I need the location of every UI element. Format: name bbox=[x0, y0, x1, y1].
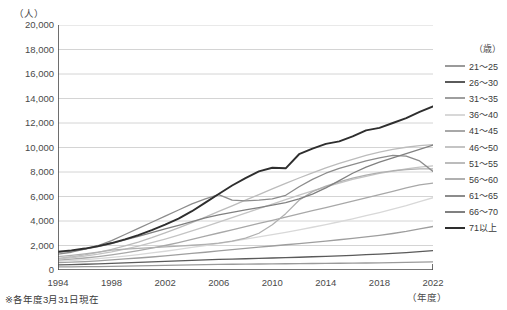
legend-item-label: 56〜60 bbox=[469, 173, 498, 186]
legend-item-label: 31〜35 bbox=[469, 92, 498, 105]
y-tick-label: 14,000 bbox=[4, 93, 54, 104]
legend-swatch-icon bbox=[445, 178, 465, 180]
x-tick-label: 2018 bbox=[357, 277, 401, 288]
legend-item-9[interactable]: 61〜65 bbox=[445, 188, 507, 204]
legend-swatch-icon bbox=[445, 162, 465, 164]
x-tick-label: 2010 bbox=[250, 277, 294, 288]
legend-rows: 21〜2526〜3031〜3536〜4041〜4546〜5051〜5556〜60… bbox=[445, 58, 507, 236]
y-tick-label: 4,000 bbox=[4, 215, 54, 226]
legend-swatch-icon bbox=[445, 211, 465, 213]
y-tick-label: 18,000 bbox=[4, 44, 54, 55]
series-lines bbox=[58, 106, 433, 266]
line-chart-svg bbox=[58, 25, 433, 270]
legend-swatch-icon bbox=[445, 146, 465, 148]
legend-swatch-icon bbox=[445, 130, 465, 132]
x-tick-label: 2006 bbox=[197, 277, 241, 288]
plot-area bbox=[58, 25, 433, 270]
legend-item-label: 51〜55 bbox=[469, 157, 498, 170]
y-tick-label: 16,000 bbox=[4, 68, 54, 79]
x-tick-label: 1994 bbox=[36, 277, 80, 288]
legend-item-2[interactable]: 26〜30 bbox=[445, 74, 507, 90]
y-tick-label: 10,000 bbox=[4, 142, 54, 153]
x-axis-unit-label: （年度） bbox=[407, 290, 447, 304]
legend-item-3[interactable]: 31〜35 bbox=[445, 90, 507, 106]
gridlines bbox=[58, 25, 433, 246]
y-tick-label: 8,000 bbox=[4, 166, 54, 177]
legend-item-11[interactable]: 71以上 bbox=[445, 220, 507, 236]
legend-item-label: 21〜25 bbox=[469, 60, 498, 73]
legend-item-5[interactable]: 41〜45 bbox=[445, 123, 507, 139]
legend-swatch-icon bbox=[445, 81, 465, 83]
legend-item-label: 66〜70 bbox=[469, 205, 498, 218]
y-tick-label: 12,000 bbox=[4, 117, 54, 128]
legend-swatch-icon bbox=[445, 114, 465, 116]
legend-item-label: 41〜45 bbox=[469, 124, 498, 137]
y-tick-label: 20,000 bbox=[4, 19, 54, 30]
legend-swatch-icon bbox=[445, 195, 465, 197]
legend: （歳） 21〜2526〜3031〜3536〜4041〜4546〜5051〜555… bbox=[445, 42, 507, 236]
y-tick-label: 2,000 bbox=[4, 240, 54, 251]
chart-page: （人） 20,00018,00016,00014,00012,00010,000… bbox=[0, 0, 507, 310]
legend-item-7[interactable]: 51〜55 bbox=[445, 155, 507, 171]
legend-item-1[interactable]: 21〜25 bbox=[445, 58, 507, 74]
legend-item-8[interactable]: 56〜60 bbox=[445, 171, 507, 187]
legend-item-6[interactable]: 46〜50 bbox=[445, 139, 507, 155]
y-tick-label: 6,000 bbox=[4, 191, 54, 202]
y-tick-label: 0 bbox=[4, 264, 54, 275]
x-tick-label: 2002 bbox=[143, 277, 187, 288]
legend-swatch-icon bbox=[445, 65, 465, 67]
x-tick-label: 2022 bbox=[411, 277, 455, 288]
legend-item-label: 26〜30 bbox=[469, 76, 498, 89]
footnote: ※各年度3月31日現在 bbox=[5, 292, 99, 306]
x-tick-label: 1998 bbox=[90, 277, 134, 288]
legend-header: （歳） bbox=[445, 42, 501, 55]
legend-item-4[interactable]: 36〜40 bbox=[445, 107, 507, 123]
legend-item-10[interactable]: 66〜70 bbox=[445, 204, 507, 220]
x-tick-label: 2014 bbox=[304, 277, 348, 288]
legend-swatch-icon bbox=[445, 97, 465, 99]
legend-item-label: 71以上 bbox=[469, 221, 497, 234]
legend-item-label: 36〜40 bbox=[469, 108, 498, 121]
legend-swatch-icon bbox=[445, 227, 465, 229]
legend-item-label: 46〜50 bbox=[469, 141, 498, 154]
legend-item-label: 61〜65 bbox=[469, 189, 498, 202]
y-axis-unit-label: （人） bbox=[14, 6, 44, 20]
